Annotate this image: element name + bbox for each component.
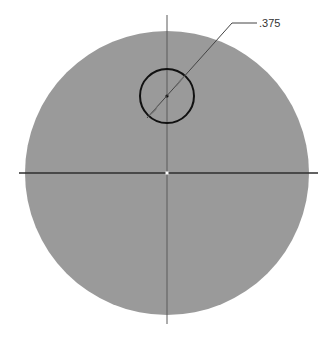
origin-point[interactable]	[166, 172, 169, 175]
dimension-label[interactable]: .375	[259, 17, 280, 29]
sketch-canvas: .375	[0, 0, 335, 339]
